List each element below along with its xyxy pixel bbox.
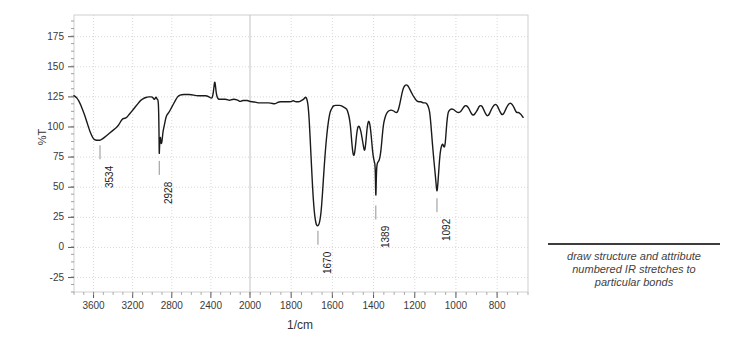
peak-label-3534: 3534 — [104, 166, 115, 188]
x-tick-label: 2800 — [152, 300, 192, 311]
x-axis-title: 1/cm — [230, 318, 370, 332]
ir-spectrum-figure: 1751501251007550250-25 36003200280024002… — [0, 0, 540, 350]
peak-label-1670: 1670 — [322, 252, 333, 274]
peak-label-2928: 2928 — [163, 182, 174, 204]
x-tick-label: 800 — [477, 300, 517, 311]
y-tick-label: 0 — [30, 241, 64, 252]
y-tick-label: 175 — [30, 31, 64, 42]
x-tick-label: 2000 — [230, 300, 270, 311]
y-tick-label: -25 — [30, 272, 64, 283]
y-tick-label: 25 — [30, 211, 64, 222]
note-divider — [548, 243, 720, 245]
spectrum-plot — [0, 0, 540, 350]
x-tick-label: 1200 — [395, 300, 435, 311]
instruction-note: draw structure and attribute numbered IR… — [540, 243, 728, 289]
x-tick-label: 1000 — [436, 300, 476, 311]
x-tick-label: 1800 — [271, 300, 311, 311]
x-tick-label: 1600 — [312, 300, 352, 311]
x-tick-label: 3200 — [113, 300, 153, 311]
x-tick-label: 2400 — [191, 300, 231, 311]
y-tick-label: 125 — [30, 91, 64, 102]
y-tick-label: 150 — [30, 61, 64, 72]
x-tick-label: 3600 — [74, 300, 114, 311]
note-line-3: particular bonds — [595, 276, 673, 288]
note-line-2: numbered IR stretches to — [572, 263, 696, 275]
y-tick-label: 50 — [30, 181, 64, 192]
note-line-1: draw structure and attribute — [567, 250, 701, 262]
peak-label-1092: 1092 — [441, 219, 452, 241]
peak-label-1389: 1389 — [380, 226, 391, 248]
plot-area-background — [74, 15, 528, 292]
ir-spectrum-page: 1751501251007550250-25 36003200280024002… — [0, 0, 732, 350]
y-axis-title: %T — [36, 117, 48, 157]
note-text: draw structure and attribute numbered IR… — [540, 250, 728, 289]
x-tick-label: 1400 — [354, 300, 394, 311]
